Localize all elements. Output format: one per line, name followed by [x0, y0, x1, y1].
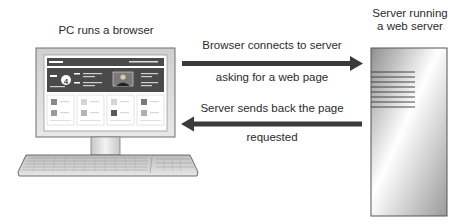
- request-label-line1: Browser connects to server: [182, 39, 362, 51]
- server-label: Server running a web server: [360, 7, 460, 33]
- server-label-line1: Server running: [360, 7, 460, 20]
- request-label-line2: asking for a web page: [182, 71, 362, 83]
- response-label-line1: Server sends back the page: [182, 102, 362, 114]
- server-label-line2: a web server: [360, 20, 460, 33]
- monitor-icon: 4: [36, 48, 175, 137]
- response-label-line2: requested: [182, 131, 362, 143]
- response-arrow: [181, 117, 362, 132]
- server-icon: [371, 48, 447, 216]
- pc-label: PC runs a browser: [40, 24, 172, 36]
- monitor-stand: [91, 137, 120, 155]
- screen-badge-number: 4: [64, 77, 69, 86]
- request-arrow: [182, 56, 363, 71]
- keyboard-icon: [18, 155, 198, 176]
